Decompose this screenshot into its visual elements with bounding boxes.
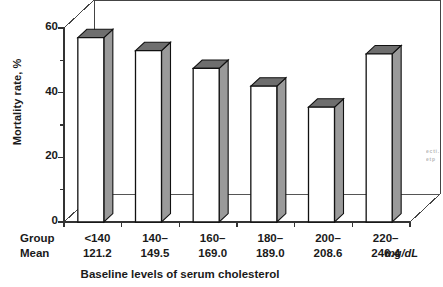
bar — [251, 78, 286, 222]
x-group-mean-label: 121.2 — [65, 247, 129, 259]
bar-front-face — [309, 107, 335, 222]
bar-side-face — [104, 29, 113, 222]
y-tick-label: 40 — [28, 85, 58, 97]
bar — [309, 99, 344, 222]
x-group-mean-label: 246.4 — [354, 247, 418, 259]
y-tick-label: 0 — [28, 214, 58, 226]
row-label-group: Group — [20, 232, 72, 244]
bar-front-face — [251, 86, 277, 222]
bar-side-face — [162, 42, 171, 222]
bar-side-face — [392, 45, 401, 222]
x-category-label: 200– — [296, 232, 360, 244]
bar-front-face — [136, 51, 162, 222]
bar-series — [78, 29, 401, 222]
y-tick-label: 20 — [28, 149, 58, 161]
x-category-label: 220– — [354, 232, 418, 244]
x-category-label: <140 — [65, 232, 129, 244]
bar-side-face — [277, 78, 286, 222]
bar — [136, 42, 171, 222]
x-axis-category-band: Group Mean mg/dL <140121.2140–149.5160–1… — [0, 232, 443, 266]
x-category-label: 180– — [238, 232, 302, 244]
y-axis-tick-labels: 0204060 — [22, 0, 58, 240]
x-group-mean-label: 189.0 — [238, 247, 302, 259]
bar-side-face — [335, 99, 344, 222]
bar-front-face — [78, 38, 104, 222]
chart-figure: Mortality rate, % 0204060 Group Mean mg/… — [0, 0, 443, 287]
x-group-mean-label: 149.5 — [123, 247, 187, 259]
bar-front-face — [366, 54, 392, 222]
y-tick-label: 60 — [28, 20, 58, 32]
x-category-label: 140– — [123, 232, 187, 244]
bar — [366, 45, 401, 222]
x-group-mean-label: 208.6 — [296, 247, 360, 259]
x-group-mean-label: 169.0 — [181, 247, 245, 259]
bar-side-face — [219, 60, 228, 222]
x-axis-title: Baseline levels of serum cholesterol — [0, 268, 360, 280]
bar — [78, 29, 113, 222]
cropped-caption-fragment: e c t i . e t p — [426, 148, 442, 240]
row-label-mean: Mean — [20, 247, 72, 259]
x-category-label: 160– — [181, 232, 245, 244]
bar — [193, 60, 228, 222]
bar-front-face — [193, 68, 219, 222]
ceiling-left-edge — [64, 0, 94, 28]
